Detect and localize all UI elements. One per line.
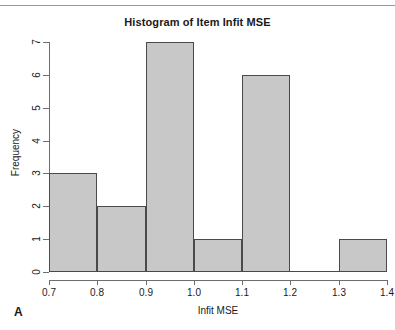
chart-title: Histogram of Item Infit MSE	[0, 16, 395, 28]
plot-area	[49, 42, 387, 272]
x-axis-tick	[146, 280, 147, 285]
y-axis-tick-label: 0	[0, 267, 40, 277]
y-axis-tick-label: 7	[0, 37, 40, 47]
histogram-bar	[242, 75, 290, 272]
x-axis-tick	[290, 280, 291, 285]
x-axis-title: Infit MSE	[49, 305, 387, 316]
histogram-bars	[49, 42, 387, 272]
histogram-bar	[146, 42, 194, 272]
x-axis-tick-label: 0.9	[126, 287, 166, 298]
histogram-bar	[97, 206, 145, 272]
x-axis-tick-label: 0.8	[77, 287, 117, 298]
histogram-figure: Histogram of Item Infit MSE 01234567 Fre…	[0, 0, 395, 330]
x-axis-tick	[194, 280, 195, 285]
x-axis-tick-label: 1.1	[222, 287, 262, 298]
histogram-bar	[49, 173, 97, 272]
x-axis-tick-label: 1.2	[270, 287, 310, 298]
x-axis-tick-label: 1.0	[174, 287, 214, 298]
x-axis-tick	[339, 280, 340, 285]
x-axis-tick	[242, 280, 243, 285]
y-axis-tick	[43, 272, 49, 273]
plot-baseline	[49, 271, 387, 272]
x-axis-tick-label: 1.3	[319, 287, 359, 298]
histogram-bar	[194, 239, 242, 272]
y-axis-tick-label: 5	[0, 103, 40, 113]
x-axis-tick	[97, 280, 98, 285]
x-axis-tick-label: 0.7	[29, 287, 69, 298]
x-axis-tick-label: 1.4	[367, 287, 395, 298]
panel-label: A	[14, 305, 23, 319]
y-axis-tick-label: 6	[0, 70, 40, 80]
y-axis-tick-label: 1	[0, 234, 40, 244]
x-axis-tick	[49, 280, 50, 285]
y-axis-tick-label: 2	[0, 201, 40, 211]
histogram-bar	[339, 239, 387, 272]
x-axis-line	[49, 280, 387, 281]
y-axis-title: Frequency	[10, 113, 21, 193]
x-axis-tick	[387, 280, 388, 285]
